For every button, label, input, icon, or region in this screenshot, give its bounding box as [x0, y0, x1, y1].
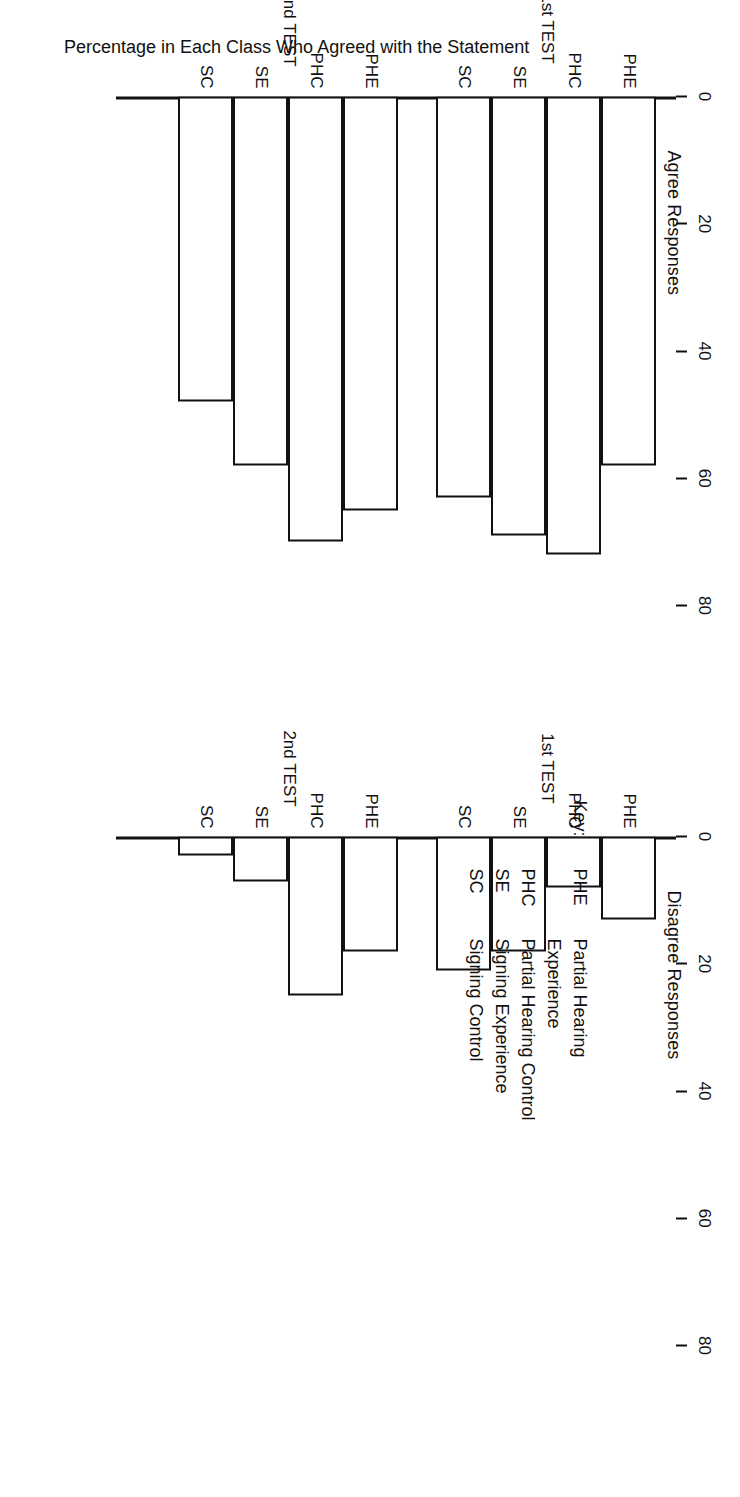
- key-legend: Key: PHEPartial HearingExperiencePHCPart…: [0, 740, 740, 1497]
- axis-tick-label: 40: [694, 321, 714, 381]
- key-abbreviation: SC: [465, 868, 486, 893]
- axis-tick: [676, 222, 687, 224]
- group-label: 2nd TEST: [279, 0, 299, 88]
- key-abbreviation: SE: [491, 868, 512, 892]
- group-label: 1st TEST: [537, 0, 557, 88]
- key-description: Signing Experience: [491, 938, 512, 1093]
- category-label: PHE: [620, 34, 640, 88]
- key-description: Partial Hearing: [569, 938, 590, 1057]
- axis-tick: [676, 604, 687, 606]
- category-label: SC: [197, 34, 217, 88]
- bar: [601, 96, 656, 465]
- key-heading: Key:: [569, 800, 590, 836]
- chart-panel-disagree: Disagree Responses 020406080 PHEPHCSESCP…: [0, 740, 740, 1497]
- bar: [343, 96, 398, 510]
- axis-tick-label: 60: [694, 448, 714, 508]
- axis-tick: [676, 477, 687, 479]
- bar: [491, 96, 546, 535]
- key-description: Partial Hearing Control: [517, 938, 538, 1120]
- key-abbreviation: PHE: [569, 868, 590, 905]
- bar: [288, 96, 343, 541]
- bar: [546, 96, 601, 554]
- figure-canvas: Agree Responses Percentage in Each Class…: [0, 0, 740, 1497]
- bar: [436, 96, 491, 497]
- axis-tick-label: 80: [694, 575, 714, 635]
- axis-tick: [676, 350, 687, 352]
- axis-tick: [676, 95, 687, 97]
- category-label: PHC: [307, 34, 327, 88]
- category-label: SE: [252, 34, 272, 88]
- category-label: PHE: [362, 34, 382, 88]
- key-description-cont: Experience: [543, 938, 564, 1028]
- key-abbreviation: PHC: [517, 868, 538, 906]
- chart-panel-agree: Agree Responses Percentage in Each Class…: [0, 0, 740, 740]
- key-description: Signing Control: [465, 938, 486, 1061]
- category-label: PHC: [565, 34, 585, 88]
- axis-tick-label: 0: [694, 66, 714, 126]
- bar: [233, 96, 288, 465]
- category-label: SE: [510, 34, 530, 88]
- bar: [178, 96, 233, 401]
- axis-tick-label: 20: [694, 193, 714, 253]
- category-label: SC: [455, 34, 475, 88]
